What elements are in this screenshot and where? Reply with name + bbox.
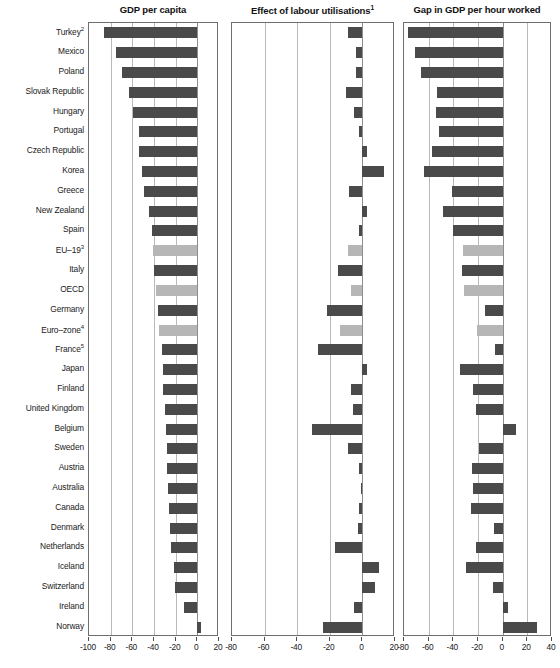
category-label-germany: Germany — [0, 304, 84, 314]
x-tick-mark — [428, 637, 429, 641]
bar — [139, 146, 198, 157]
x-tick-mark — [153, 637, 154, 641]
bar — [168, 483, 197, 494]
gridline — [429, 23, 430, 635]
bar — [358, 523, 363, 534]
x-tick-mark — [231, 637, 232, 641]
category-label-text: Euro–zone — [41, 324, 81, 334]
bar — [197, 622, 200, 633]
gridline — [297, 23, 298, 635]
x-tick-mark — [88, 637, 89, 641]
bar — [166, 424, 197, 435]
bar — [159, 325, 197, 336]
category-label-text: EU–19 — [56, 245, 81, 255]
bar — [471, 503, 503, 514]
gridline — [111, 23, 112, 635]
bar — [338, 265, 362, 276]
bar — [312, 424, 363, 435]
bar — [452, 186, 503, 197]
bar — [362, 166, 383, 177]
plot-area-panel-2 — [231, 22, 394, 636]
bar — [158, 305, 197, 316]
x-tick-mark — [394, 637, 395, 641]
bar — [318, 344, 362, 355]
category-label-portugal: Portugal — [0, 125, 84, 135]
bar — [362, 582, 375, 593]
panel-title-2: Effect of labour utilisations1 — [231, 4, 394, 16]
bar — [152, 225, 198, 236]
bar — [495, 344, 502, 355]
bar — [479, 443, 502, 454]
bar — [335, 542, 363, 553]
bar — [327, 305, 363, 316]
category-label-italy: Italy — [0, 264, 84, 274]
bar — [154, 265, 197, 276]
bar — [133, 107, 197, 118]
bar — [129, 87, 197, 98]
category-label-japan: Japan — [0, 363, 84, 373]
bar — [453, 225, 502, 236]
gridline — [265, 23, 266, 635]
category-label-eurozone: Euro–zone4 — [0, 324, 84, 335]
x-tick-label: 40 — [536, 642, 560, 652]
category-footnote-marker: 5 — [81, 343, 84, 349]
category-label-denmark: Denmark — [0, 522, 84, 532]
bar — [359, 225, 362, 236]
category-label-eu19: EU–193 — [0, 244, 84, 255]
bar — [503, 424, 517, 435]
bar — [359, 126, 362, 137]
bar — [139, 126, 198, 137]
bar — [170, 523, 197, 534]
bar — [476, 542, 503, 553]
panel-title-text: Gap in GDP per hour worked — [413, 4, 540, 15]
category-footnote-marker: 3 — [81, 244, 84, 250]
bar — [436, 107, 503, 118]
bar — [466, 562, 503, 573]
bar — [476, 404, 503, 415]
category-label-oecd: OECD — [0, 284, 84, 294]
bar — [167, 463, 197, 474]
category-label-switzerland: Switzerland — [0, 581, 84, 591]
zero-line — [503, 23, 504, 635]
category-label-poland: Poland — [0, 66, 84, 76]
plot-area-panel-3 — [403, 22, 551, 636]
category-label-greece: Greece — [0, 185, 84, 195]
bar — [503, 602, 508, 613]
bar — [122, 67, 198, 78]
x-tick-label: 0 — [346, 642, 376, 652]
category-footnote-marker: 4 — [81, 324, 84, 330]
bar — [348, 27, 363, 38]
x-tick-mark — [452, 637, 453, 641]
x-tick-label: -20 — [314, 642, 344, 652]
bar — [323, 622, 362, 633]
x-tick-mark — [218, 637, 219, 641]
x-tick-mark — [196, 637, 197, 641]
x-tick-mark — [264, 637, 265, 641]
x-tick-mark — [110, 637, 111, 641]
bar — [359, 503, 362, 514]
bar — [362, 206, 367, 217]
bar — [361, 483, 363, 494]
category-label-ireland: Ireland — [0, 601, 84, 611]
bar — [351, 285, 362, 296]
bar — [432, 146, 502, 157]
bar — [493, 582, 503, 593]
bar — [142, 166, 197, 177]
plot-area-panel-1 — [88, 22, 218, 636]
bar — [472, 463, 503, 474]
bar — [421, 67, 502, 78]
category-label-spain: Spain — [0, 224, 84, 234]
panel-title-footnote-marker: 1 — [371, 4, 375, 11]
category-label-newzealand: New Zealand — [0, 205, 84, 215]
category-label-text: Turkey — [56, 27, 81, 37]
category-label-austria: Austria — [0, 462, 84, 472]
x-tick-mark — [131, 637, 132, 641]
category-label-finland: Finland — [0, 383, 84, 393]
bar — [340, 325, 363, 336]
x-tick-mark — [296, 637, 297, 641]
bar — [348, 443, 363, 454]
x-tick-mark — [551, 637, 552, 641]
bar — [473, 483, 503, 494]
category-label-slovakrepublic: Slovak Republic — [0, 86, 84, 96]
bar — [165, 404, 198, 415]
